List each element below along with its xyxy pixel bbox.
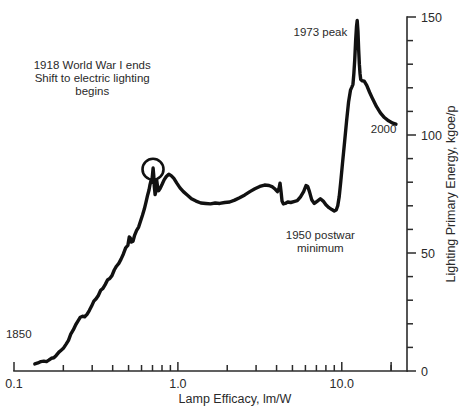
annotation-line: 1950 postwar (286, 229, 355, 241)
annotation-line: 1850 (6, 328, 32, 340)
x-axis-title: Lamp Efficacy, lm/W (179, 392, 292, 406)
annotation-line: 2000 (371, 123, 397, 135)
annotation-end-year: 2000 (371, 123, 397, 135)
annotation-line: 1918 World War I ends (34, 59, 151, 71)
y-tick-label: 0 (421, 365, 428, 379)
y-axis-title: Lighting Primary Energy, kgoe/p (444, 105, 458, 282)
annotation-line: 1973 peak (293, 26, 347, 38)
lighting-energy-vs-efficacy-chart: 0.11.010.0 050100150 18501918 World War … (0, 0, 471, 418)
x-axis-ticks (14, 362, 391, 371)
x-tick-label: 1.0 (169, 377, 186, 391)
y-axis-ticks (407, 17, 416, 371)
annotation-line: Shift to electric lighting (35, 72, 150, 84)
annotation-wwi-shift: 1918 World War I endsShift to electric l… (34, 59, 151, 97)
chart-annotations: 18501918 World War I endsShift to electr… (6, 26, 396, 340)
y-axis-tick-labels: 050100150 (421, 11, 442, 379)
annotation-line: begins (75, 85, 109, 97)
y-tick-label: 50 (421, 247, 435, 261)
annotation-line: minimum (297, 242, 344, 254)
annotation-start-year: 1850 (6, 328, 32, 340)
annotation-postwar-minimum: 1950 postwarminimum (286, 229, 355, 254)
y-tick-label: 100 (421, 129, 442, 143)
x-axis-tick-labels: 0.11.010.0 (5, 377, 354, 391)
x-tick-label: 10.0 (330, 377, 354, 391)
x-tick-label: 0.1 (5, 377, 22, 391)
annotation-peak-1973: 1973 peak (293, 26, 347, 38)
chart-figure: 0.11.010.0 050100150 18501918 World War … (0, 0, 471, 418)
y-tick-label: 150 (421, 11, 442, 25)
